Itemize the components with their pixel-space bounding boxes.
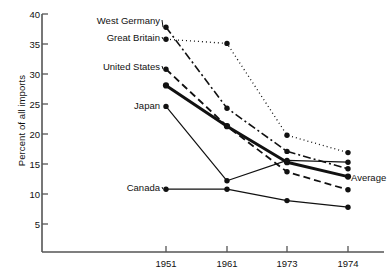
plot-area [0,0,392,279]
axes [42,14,384,252]
series-average [163,82,351,179]
series-canada [163,187,350,210]
series-united-states [163,67,350,193]
label-leader-lines [162,20,351,189]
line-chart: Percent of all imports 40 35 30 25 20 15… [0,0,392,279]
